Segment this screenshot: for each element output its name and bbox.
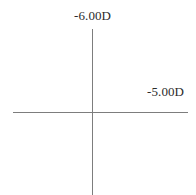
horizontal-power-label: -5.00D — [147, 85, 184, 99]
power-cross-diagram: -6.00D -5.00D — [0, 0, 196, 195]
horizontal-meridian-axis-line — [13, 112, 188, 113]
vertical-power-label: -6.00D — [74, 9, 111, 23]
